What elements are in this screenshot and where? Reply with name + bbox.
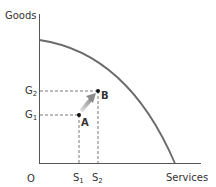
y-axis-label: Goods xyxy=(5,10,37,21)
x-tick-s1: S1 xyxy=(73,172,84,185)
x-tick-s2: S2 xyxy=(92,172,103,185)
ppf-curve xyxy=(40,40,176,164)
shift-arrow xyxy=(81,93,96,111)
point-b-marker xyxy=(96,89,100,93)
ppf-diagram: A B Goods Services O G2 G1 S1 S2 xyxy=(0,0,216,187)
y-tick-g1: G1 xyxy=(25,109,37,122)
point-a-label: A xyxy=(81,117,89,128)
x-axis-label: Services xyxy=(166,172,208,183)
point-b-label: B xyxy=(101,90,109,101)
y-tick-g2: G2 xyxy=(25,85,37,98)
origin-label: O xyxy=(27,173,35,184)
